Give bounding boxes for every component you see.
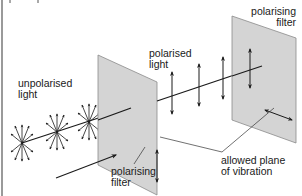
label-polarised-light: polarised light [149,48,192,70]
unpolarised-wavefront-2 [46,114,68,150]
label-allowed-plane: allowed plane of vibration [221,155,285,177]
unpolarised-wavefront-1 [11,125,33,161]
label-polarising-filter-top: polarising filter [246,6,296,28]
label-filter-top-line2: filter [246,17,296,28]
label-allowed-plane-line2: of vibration [221,166,285,177]
label-polarising-filter-bottom: polarising filter [111,166,156,188]
label-unpolarised-light: unpolarised light [18,78,72,100]
label-unpolarised-line2: light [18,89,72,100]
polarising-filter-2 [232,16,296,143]
label-polarised-line2: light [149,59,192,70]
unpolarised-wavefront-3 [78,104,100,140]
label-filter-bottom-line2: filter [111,177,156,188]
